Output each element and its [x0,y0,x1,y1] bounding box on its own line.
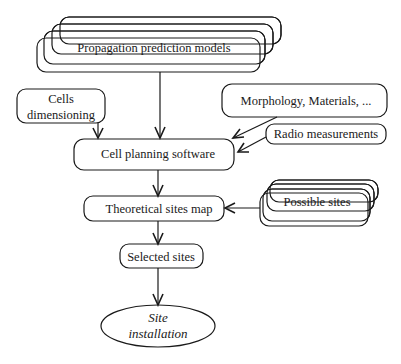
node-theoretical-sites-map: Theoretical sites map [84,196,224,221]
node-cell-planning-software: Cell planning software [74,139,234,170]
node-propagation-prediction-models: Propagation prediction models [37,17,281,72]
node-label: Radio measurements [274,127,379,141]
node-label: Possible sites [283,195,350,209]
node-label-line1: Site [148,310,168,325]
node-site-installation: Site installation [101,305,215,347]
node-label: Cell planning software [101,147,215,161]
flow-diagram: Propagation prediction models Cells dime… [0,0,401,364]
node-selected-sites: Selected sites [120,244,203,268]
node-possible-sites: Possible sites [260,180,378,226]
node-label-line2: installation [128,326,187,341]
node-label: Theoretical sites map [106,202,213,216]
node-radio-measurements: Radio measurements [266,124,386,144]
node-label: Selected sites [127,250,195,264]
node-cells-dimensioning: Cells dimensioning [17,89,105,123]
node-label-line1: Cells [48,92,74,106]
node-label-line2: dimensioning [27,108,96,122]
node-morphology-materials: Morphology, Materials, ... [222,84,387,117]
node-label: Morphology, Materials, ... [241,94,372,108]
node-label: Propagation prediction models [77,41,231,55]
